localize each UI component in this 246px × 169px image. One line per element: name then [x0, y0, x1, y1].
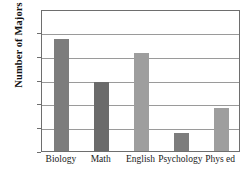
bar-chart-figure: Number of Majors 020406080100120 Biology… — [0, 0, 246, 169]
plot-area — [41, 10, 240, 152]
bar — [134, 53, 149, 151]
bar — [94, 82, 109, 151]
gridline — [42, 34, 239, 35]
bar — [214, 108, 229, 151]
x-axis-tick-group: BiologyMathEnglishPsychologyPhys ed — [41, 154, 240, 168]
x-tick-label: Phys ed — [180, 154, 246, 164]
bar — [174, 133, 189, 151]
bar — [54, 39, 69, 151]
